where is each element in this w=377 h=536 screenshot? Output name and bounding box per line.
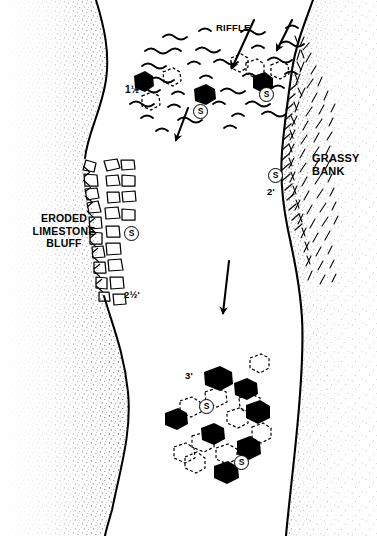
depth-label-riffle: 1½ xyxy=(125,84,139,95)
structure-marker-bluff: S xyxy=(124,226,139,241)
depth-label-pool: 3' xyxy=(185,370,193,381)
arrow-riffle-right xyxy=(277,20,292,50)
arrow-midstream xyxy=(176,108,188,140)
right-bank-grassy xyxy=(281,0,377,536)
pool-rocks-solid xyxy=(165,366,270,484)
structure-marker-riffle-right: S xyxy=(259,87,274,102)
label-grassy-bank: GRASSY BANK xyxy=(312,152,360,178)
structure-marker-grassy-bank: S xyxy=(268,168,283,183)
structure-marker-pool-lower: S xyxy=(234,455,249,470)
stream-diagram-artwork xyxy=(0,0,377,536)
structure-marker-riffle-left: S xyxy=(193,104,208,119)
riffle-water-lines xyxy=(130,26,304,132)
label-riffle: RIFFLE xyxy=(216,22,250,33)
flow-arrows xyxy=(176,20,292,313)
illustration-canvas: RIFFLE GRASSY BANK ERODED LIMESTONE BLUF… xyxy=(0,0,377,536)
depth-label-grassy-bank: 2' xyxy=(267,186,275,197)
label-eroded-limestone-bluff: ERODED LIMESTONE BLUFF xyxy=(18,212,110,250)
structure-marker-pool-upper: S xyxy=(199,399,214,414)
arrow-center-pool xyxy=(223,261,229,313)
depth-label-bluff: 2½' xyxy=(124,289,140,300)
left-bank-stipple xyxy=(0,0,129,536)
left-bank-eroded-limestone-bluff xyxy=(0,0,136,536)
